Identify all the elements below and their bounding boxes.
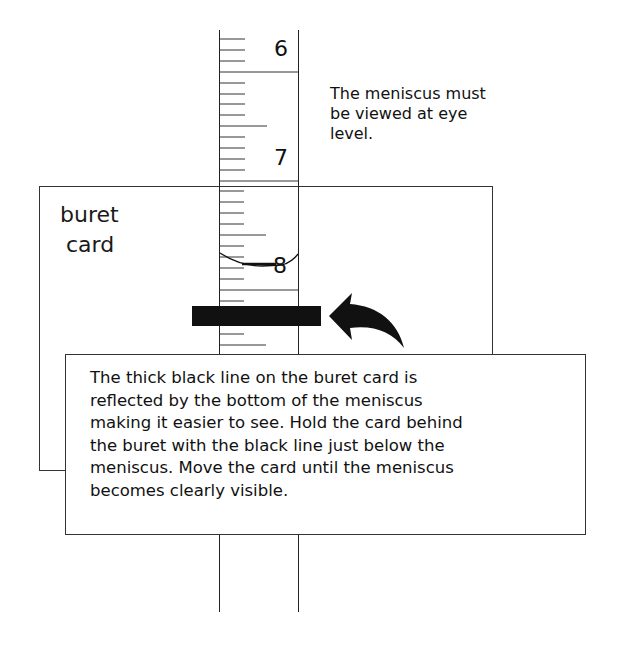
eye-level-line: The meniscus must (330, 84, 550, 104)
thick-black-line (192, 306, 321, 326)
scale-label-6: 6 (274, 36, 288, 61)
explanation-line: the buret with the black line just below… (90, 435, 569, 458)
eye-level-line: level. (330, 124, 550, 144)
explanation-line: reflected by the bottom of the meniscus (90, 390, 569, 413)
scale-label-7: 7 (274, 145, 288, 170)
scale-label-8: 8 (273, 253, 287, 278)
explanation-line: meniscus. Move the card until the menisc… (90, 457, 569, 480)
eye-level-line: be viewed at eye (330, 104, 550, 124)
explanation-box: The thick black line on the buret card i… (65, 354, 586, 535)
eye-level-note: The meniscus must be viewed at eye level… (330, 84, 550, 144)
curved-arrow-icon (329, 293, 404, 348)
explanation-line: The thick black line on the buret card i… (90, 367, 569, 390)
explanation-line: becomes clearly visible. (90, 480, 569, 503)
explanation-line: making it easier to see. Hold the card b… (90, 412, 569, 435)
